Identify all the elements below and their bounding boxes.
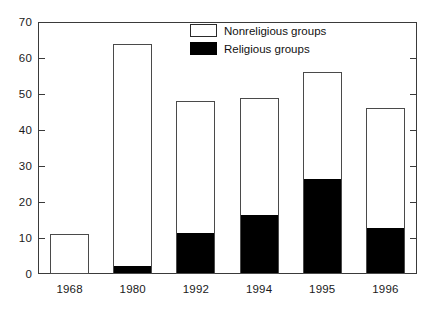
bar-segment-religious-1996	[367, 228, 404, 273]
legend-swatch-nonreligious-icon	[190, 24, 217, 37]
y-tick-mark	[38, 166, 45, 167]
legend-item-nonreligious: Nonreligious groups	[190, 24, 326, 37]
x-tick-label-1994: 1994	[228, 283, 291, 295]
y-tick-mark	[38, 202, 45, 203]
bar-chart: 010203040506070 196819801992199419951996…	[0, 0, 441, 317]
y-tick-label: 10	[6, 232, 32, 244]
y-tick-label: 20	[6, 196, 32, 208]
y-tick-mark-right	[410, 166, 417, 167]
plot-area	[38, 22, 417, 274]
bar-1980	[113, 44, 152, 274]
y-tick-mark-right	[410, 58, 417, 59]
bar-1994	[240, 98, 279, 274]
y-tick-mark	[38, 130, 45, 131]
x-tick-label-1996: 1996	[354, 283, 417, 295]
chart-legend: Nonreligious groups Religious groups	[190, 24, 326, 55]
legend-label-nonreligious: Nonreligious groups	[224, 25, 326, 37]
legend-item-religious: Religious groups	[190, 42, 326, 55]
legend-label-religious: Religious groups	[224, 43, 310, 55]
y-tick-mark	[38, 238, 45, 239]
y-tick-mark-right	[410, 94, 417, 95]
y-tick-label: 60	[6, 52, 32, 64]
y-axis: 010203040506070	[0, 0, 32, 317]
y-tick-mark	[38, 58, 45, 59]
bar-segment-religious-1994	[241, 215, 278, 273]
y-tick-label: 70	[6, 16, 32, 28]
y-tick-label: 40	[6, 124, 32, 136]
y-tick-mark	[38, 94, 45, 95]
bar-segment-religious-1980	[114, 266, 151, 273]
bar-1995	[303, 72, 342, 274]
x-tick-label-1995: 1995	[291, 283, 354, 295]
x-tick-label-1968: 1968	[38, 283, 101, 295]
y-tick-mark-right	[410, 130, 417, 131]
legend-swatch-religious-icon	[190, 42, 217, 55]
y-tick-label: 0	[6, 268, 32, 280]
x-tick-label-1992: 1992	[164, 283, 227, 295]
bar-segment-religious-1995	[304, 179, 341, 273]
x-tick-label-1980: 1980	[101, 283, 164, 295]
y-tick-mark-right	[410, 202, 417, 203]
bar-1992	[176, 101, 215, 274]
bar-1996	[366, 108, 405, 274]
bar-segment-religious-1992	[177, 233, 214, 273]
y-tick-mark-right	[410, 238, 417, 239]
y-tick-label: 50	[6, 88, 32, 100]
bar-1968	[50, 234, 89, 274]
y-tick-label: 30	[6, 160, 32, 172]
